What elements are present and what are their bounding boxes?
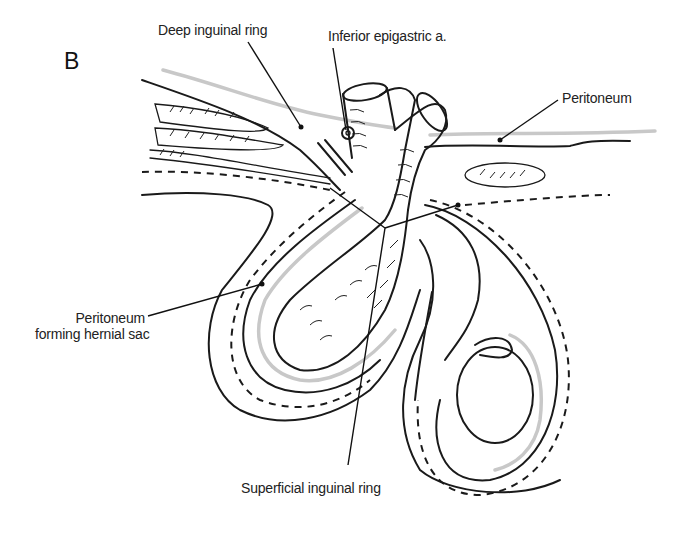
panel-letter: B: [64, 48, 79, 75]
leader-superficial-ring-right: [385, 205, 458, 228]
testis: [457, 347, 533, 443]
cord-inner-line: [436, 215, 480, 360]
abdominal-wall-line: [142, 80, 340, 190]
leader-deep-ring: [248, 42, 301, 127]
vas-deferens-stub: [318, 140, 352, 175]
hernia-diagram: B Deep inguinal ring Inferior epigastric…: [0, 0, 686, 545]
fascia-dash-sac: [231, 192, 370, 407]
label-peritoneum-sac: Peritoneum forming hernial sac: [35, 310, 145, 342]
anatomy-drawing: [0, 0, 686, 545]
label-deep-inguinal-ring: Deep inguinal ring: [158, 22, 267, 38]
leader-peritoneum-sac: [148, 284, 262, 316]
leader-superficial-ring: [330, 188, 385, 465]
label-superficial-inguinal-ring: Superficial inguinal ring: [241, 480, 381, 496]
muscle-layer-3: [150, 150, 330, 178]
bowel-loop-outer: [274, 88, 415, 371]
fascia-dash-right: [465, 195, 610, 205]
fascia-dash-left: [142, 172, 330, 190]
cross-section-hatching: [480, 169, 525, 178]
label-peritoneum-sac-line2: forming hernial sac: [35, 326, 145, 342]
peritoneum-grey-right: [430, 131, 655, 135]
scrotal-wall: [425, 205, 557, 480]
peritoneum-dark-right: [425, 141, 630, 147]
muscle-layer-1: [155, 104, 268, 131]
label-peritoneum-top: Peritoneum: [562, 90, 632, 106]
label-peritoneum-sac-line1: Peritoneum: [35, 310, 145, 326]
cross-section-vessel: [465, 163, 545, 187]
bowel-proximal: [395, 104, 446, 210]
muscle-layer-2: [155, 128, 283, 150]
label-inferior-epigastric: Inferior epigastric a.: [328, 28, 447, 44]
tunica-vaginalis: [495, 335, 541, 470]
bowel-cut-end-1: [342, 80, 388, 103]
